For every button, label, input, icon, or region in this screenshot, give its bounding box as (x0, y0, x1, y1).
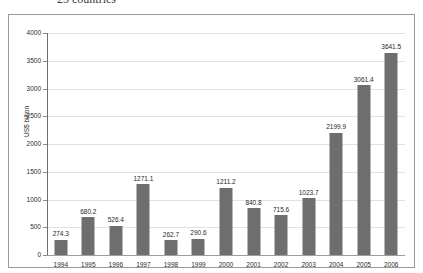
x-tick-label: 2000 (219, 262, 233, 269)
bar-value-label: 3641.5 (381, 44, 401, 51)
bar[interactable]: 1271.1 (137, 184, 150, 255)
x-tick-label: 2005 (356, 262, 370, 269)
y-tick-label: 500 (30, 224, 41, 231)
x-tick-label: 1998 (164, 262, 178, 269)
bar[interactable]: 3061.4 (357, 85, 370, 255)
gridline (47, 144, 405, 145)
bar-value-label: 290.6 (190, 230, 206, 237)
x-tick-label: 1996 (109, 262, 123, 269)
y-tick-label: 3500 (27, 58, 41, 65)
caption-text: 25 countries (57, 0, 116, 7)
y-tick-label: 3000 (27, 85, 41, 92)
x-tick-label: 2003 (301, 262, 315, 269)
bar[interactable]: 2199.9 (330, 133, 343, 255)
bar[interactable]: 1211.2 (219, 188, 232, 255)
y-tick-label: 2000 (27, 141, 41, 148)
bar[interactable]: 840.8 (247, 208, 260, 255)
bar-value-label: 274.3 (53, 231, 69, 238)
gridline (47, 33, 405, 34)
bar-value-label: 2199.9 (326, 124, 346, 131)
x-tick-label: 1997 (136, 262, 150, 269)
bar[interactable]: 3641.5 (385, 53, 398, 255)
chart-frame: US$ billion 4000350030002500200015001000… (8, 14, 415, 268)
plot-area: 40003500300025002000150010005000 274.319… (47, 33, 405, 256)
bar-value-label: 1211.2 (216, 179, 235, 186)
y-tick-label: 1000 (27, 196, 41, 203)
bar[interactable]: 1023.7 (302, 198, 315, 255)
bar[interactable]: 526.4 (109, 226, 122, 255)
x-tick-label: 1999 (191, 262, 205, 269)
bar[interactable]: 680.2 (82, 217, 95, 255)
bar-value-label: 840.8 (245, 200, 261, 207)
y-tick-label: 4000 (27, 30, 41, 37)
bar[interactable]: 262.7 (164, 240, 177, 255)
gridline (47, 116, 405, 117)
y-tick-label: 1500 (27, 169, 41, 176)
x-tick-label: 2004 (329, 262, 343, 269)
gridline (47, 61, 405, 62)
bar-value-label: 1271.1 (133, 176, 153, 183)
x-tick-label: 2006 (384, 262, 398, 269)
y-tick-label: 2500 (27, 113, 41, 120)
x-tick-label: 1994 (54, 262, 68, 269)
bar[interactable]: 290.6 (192, 239, 205, 255)
bar-value-label: 715.6 (273, 207, 289, 214)
bar[interactable]: 715.6 (275, 215, 288, 255)
x-tick-label: 1995 (81, 262, 95, 269)
caption-strip: 25 countries (0, 0, 423, 13)
x-tick-label: 2002 (274, 262, 288, 269)
gridline (47, 89, 405, 90)
y-tick-label: 0 (37, 252, 41, 259)
y-axis-line (47, 33, 48, 256)
bar-value-label: 526.4 (108, 217, 124, 224)
bar[interactable]: 274.3 (54, 240, 67, 255)
bar-value-label: 3061.4 (354, 77, 374, 84)
gridline (47, 172, 405, 173)
x-tick-label: 2001 (246, 262, 260, 269)
bar-value-label: 680.2 (80, 209, 96, 216)
bar-value-label: 1023.7 (299, 190, 319, 197)
x-axis-line (47, 255, 405, 256)
bar-value-label: 262.7 (163, 232, 179, 239)
